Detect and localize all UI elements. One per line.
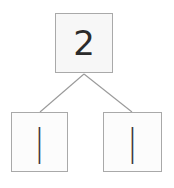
edge-root-to-left [40,74,84,112]
left-child-node-value: | [37,122,42,162]
right-child-node-value: | [130,122,135,162]
root-node[interactable]: 2 [55,13,113,73]
edge-root-to-right [84,74,132,112]
root-node-value: 2 [73,26,95,60]
left-child-node[interactable]: | [11,112,68,172]
right-child-node[interactable]: | [103,112,162,172]
number-bond-diagram: 2 | | [0,0,174,188]
